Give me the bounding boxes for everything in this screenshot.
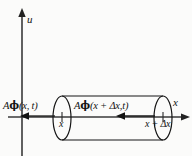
phi-symbol-right: ϕ <box>80 99 90 111</box>
up-arrow-icon <box>18 8 25 17</box>
flux-left-post: (x, t) <box>19 100 38 111</box>
flux-right-post: (x + Δx,t) <box>90 100 128 111</box>
physics-flux-diagram: u x Aϕ(x, t) Aϕ(x + Δx,t) x x + Δx <box>0 0 192 156</box>
u-axis-label: u <box>27 14 32 25</box>
u-axis <box>18 8 25 156</box>
phi-symbol-left: ϕ <box>9 99 19 111</box>
right-arrow-icon <box>181 113 190 120</box>
left-arrow-icon-inner <box>116 112 125 120</box>
flux-right-label: Aϕ(x + Δx,t) <box>74 100 128 112</box>
tick-label-x: x <box>59 119 63 129</box>
x-axis-label: x <box>173 97 178 108</box>
outflow-arrow <box>20 112 55 120</box>
flux-left-label: Aϕ(x, t) <box>3 100 38 112</box>
tick-label-x-plus-delta-x: x + Δx <box>145 119 170 129</box>
